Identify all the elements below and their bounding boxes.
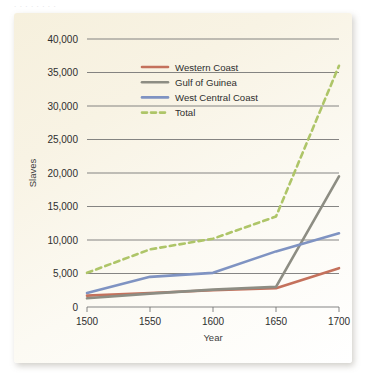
y-axis-tick-label: 35,000	[47, 67, 78, 78]
legend-label: West Central Coast	[175, 92, 258, 103]
x-axis-tick-label: 1700	[328, 316, 351, 327]
y-axis-tick-label: 30,000	[47, 101, 78, 112]
y-axis-tick-label: 0	[72, 302, 78, 313]
figure: 05,00010,00015,00020,00025,00030,00035,0…	[14, 13, 354, 366]
legend-label: Total	[175, 107, 195, 118]
legend-label: Gulf of Guinea	[175, 77, 238, 88]
y-axis-tick-label: 25,000	[47, 134, 78, 145]
y-axis-tick-label: 10,000	[47, 235, 78, 246]
chart-plot-area: 05,00010,00015,00020,00025,00030,00035,0…	[14, 13, 352, 363]
y-axis-tick-label: 40,000	[47, 34, 78, 45]
x-axis-title: Year	[203, 332, 222, 343]
y-axis-title: Slaves	[27, 158, 38, 187]
legend-label: Western Coast	[175, 62, 239, 73]
y-axis-tick-label: 20,000	[47, 168, 78, 179]
x-axis-tick-label: 1650	[265, 316, 288, 327]
x-axis-tick-label: 1600	[202, 316, 225, 327]
y-axis-tick-label: 15,000	[47, 201, 78, 212]
x-axis-tick-label: 1500	[76, 316, 99, 327]
line-chart: 05,00010,00015,00020,00025,00030,00035,0…	[14, 13, 352, 363]
x-axis-tick-label: 1550	[139, 316, 162, 327]
caption-remnant: . . . . . . . .	[0, 0, 371, 9]
y-axis-tick-label: 5,000	[53, 268, 78, 279]
